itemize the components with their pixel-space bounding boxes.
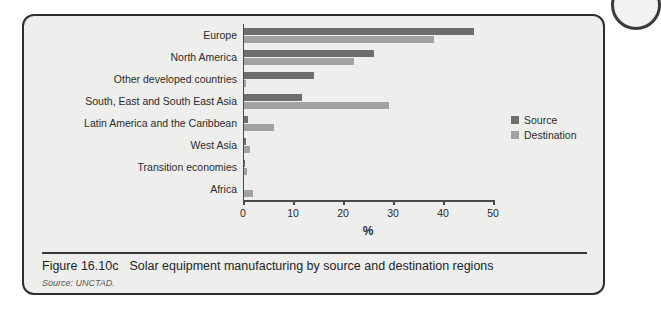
caption-block: Figure 16.10cSolar equipment manufacturi… [42,259,587,288]
bar-destination [244,124,274,131]
legend-swatch-destination [511,131,519,139]
category-axis: EuropeNorth AmericaOther developed count… [24,24,243,200]
bar-source [244,138,246,145]
bar-destination [244,80,246,87]
category-label: South, East and South East Asia [24,90,243,112]
bar-source [244,94,302,101]
plot-wrapper: EuropeNorth AmericaOther developed count… [24,24,524,214]
category-label: Latin America and the Caribbean [24,112,243,134]
x-tick-label: 10 [287,207,299,219]
bar-destination [244,168,247,175]
x-tick-label: 0 [240,207,246,219]
legend-label: Destination [524,129,577,141]
category-label: North America [24,46,243,68]
category-label: Europe [24,24,243,46]
bar-source [244,116,248,123]
bar-group [244,160,494,175]
bar-group [244,182,494,197]
x-tick [293,200,295,205]
category-label: West Asia [24,134,243,156]
bar-destination [244,58,354,65]
bar-group [244,72,494,87]
caption-divider [42,252,587,254]
bar-source [244,72,314,79]
figure-panel: EuropeNorth AmericaOther developed count… [22,14,605,295]
bar-destination [244,36,434,43]
x-axis: 01020304050 [243,200,493,202]
chart-legend: SourceDestination [511,114,577,144]
x-axis-title: % [243,224,493,238]
bar-source [244,160,245,167]
chart-area: EuropeNorth AmericaOther developed count… [24,16,603,248]
x-tick [493,200,495,205]
bar-group [244,28,494,43]
bar-group [244,138,494,153]
x-tick [243,200,245,205]
x-tick [443,200,445,205]
x-tick-label: 50 [487,207,499,219]
bar-destination [244,190,253,197]
bars-region [243,24,494,200]
legend-item: Destination [511,129,577,141]
legend-label: Source [524,114,557,126]
x-tick-label: 20 [337,207,349,219]
bar-destination [244,102,389,109]
figure-source-note: Source: UNCTAD. [42,278,587,288]
category-label: Other developed countries [24,68,243,90]
figure-caption: Figure 16.10cSolar equipment manufacturi… [42,259,587,273]
page-corner-artifact [611,0,661,30]
x-tick [393,200,395,205]
legend-item: Source [511,114,577,126]
category-label: Transition economies [24,156,243,178]
bar-source [244,50,374,57]
bar-destination [244,146,250,153]
bar-group [244,116,494,131]
legend-swatch-source [511,116,519,124]
x-tick-label: 40 [437,207,449,219]
x-tick [343,200,345,205]
figure-title: Solar equipment manufacturing by source … [129,259,493,273]
bar-group [244,94,494,109]
category-label: Africa [24,178,243,200]
bar-group [244,50,494,65]
x-tick-label: 30 [387,207,399,219]
bar-source [244,28,474,35]
figure-number: Figure 16.10c [42,259,118,273]
